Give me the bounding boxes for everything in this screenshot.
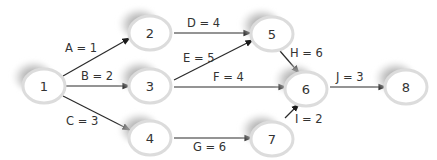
node-label-6: 6 [302, 82, 310, 97]
node-3: 3 [118, 60, 171, 103]
node-5: 5 [240, 8, 293, 51]
edge-label-G: G = 6 [193, 140, 226, 154]
edge-label-C: C = 3 [66, 114, 98, 128]
node-8: 8 [374, 61, 427, 104]
node-1: 1 [12, 60, 65, 103]
edge-label-H: H = 6 [290, 46, 323, 60]
node-4: 4 [118, 112, 171, 155]
edge-D: D = 4 [174, 16, 251, 33]
node-label-1: 1 [40, 79, 48, 94]
edge-label-J: J = 3 [335, 70, 364, 84]
edge-label-D: D = 4 [187, 16, 220, 30]
edge-label-B: B = 2 [81, 69, 113, 83]
network-diagram: A = 1 B = 2 C = 3 D = 4 E = 5 F = 4 G = … [0, 0, 437, 160]
edge-label-F: F = 4 [213, 70, 244, 84]
edge-G: G = 6 [174, 138, 252, 154]
node-label-3: 3 [146, 79, 154, 94]
node-6: 6 [274, 63, 327, 106]
edge-label-E: E = 5 [183, 51, 215, 65]
node-label-4: 4 [146, 131, 154, 146]
node-label-2: 2 [146, 26, 154, 41]
edge-F: F = 4 [174, 70, 286, 87]
edge-label-I: I = 2 [295, 112, 323, 126]
node-2: 2 [118, 7, 171, 50]
node-7: 7 [240, 113, 293, 156]
node-label-5: 5 [268, 27, 276, 42]
node-label-7: 7 [268, 132, 276, 147]
edges: A = 1 B = 2 C = 3 D = 4 E = 5 F = 4 G = … [63, 16, 386, 154]
node-label-8: 8 [402, 80, 410, 95]
edge-label-A: A = 1 [65, 41, 97, 55]
